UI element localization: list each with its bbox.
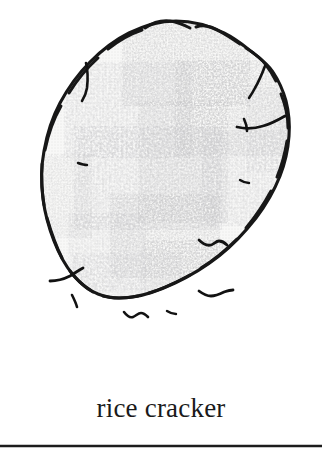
rice-cracker-illustration xyxy=(0,0,322,375)
flashcard: rice cracker xyxy=(0,0,322,457)
rice-cracker-svg xyxy=(0,0,322,375)
caption-label: rice cracker xyxy=(0,392,322,424)
